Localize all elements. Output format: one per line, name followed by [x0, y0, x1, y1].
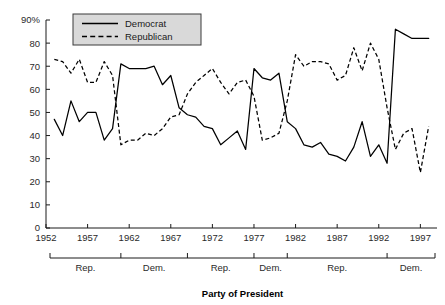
x-axis-title: Party of President [202, 288, 284, 299]
party-bracket-axis: Rep.Dem.Rep.Dem.Rep.Dem. [50, 253, 435, 273]
bracket-labels: Rep.Dem.Rep.Dem.Rep.Dem. [75, 262, 422, 273]
bracket-line [50, 253, 435, 258]
chart-legend: Democrat Republican [73, 14, 201, 45]
bracket-segment-label: Dem. [143, 262, 166, 273]
legend-label-republican: Republican [125, 31, 173, 42]
y-axis-tickmarks [46, 20, 50, 228]
x-axis-tick-labels: 1952195719621967197219771982198719921997 [35, 232, 431, 243]
y-tick-label: 80 [29, 38, 40, 49]
x-tick-label: 1962 [119, 232, 140, 243]
x-tick-label: 1987 [327, 232, 348, 243]
bracket-segment-label: Rep. [327, 262, 347, 273]
bracket-segment-label: Dem. [400, 262, 423, 273]
legend-label-democrat: Democrat [125, 18, 167, 29]
series-line-democrat [54, 29, 428, 163]
x-tick-label: 1977 [243, 232, 264, 243]
y-tick-label: 70 [29, 61, 40, 72]
y-axis-tick-labels: 0102030405060708090% [21, 14, 41, 233]
x-tick-label: 1952 [35, 232, 56, 243]
bracket-segment-label: Rep. [75, 262, 95, 273]
bracket-segment-label: Rep. [211, 262, 231, 273]
bracket-segment-label: Dem. [259, 262, 282, 273]
y-tick-label: 60 [29, 84, 40, 95]
x-tick-label: 1997 [410, 232, 431, 243]
line-chart: 0102030405060708090% 1952195719621967197… [0, 0, 445, 305]
x-tick-label: 1967 [160, 232, 181, 243]
x-tick-label: 1972 [202, 232, 223, 243]
x-axis-tickmarks [46, 224, 420, 228]
axis-frame [46, 20, 437, 228]
x-tick-label: 1992 [368, 232, 389, 243]
y-tick-label: 10 [29, 199, 40, 210]
y-tick-label: 90% [21, 14, 41, 25]
x-tick-label: 1982 [285, 232, 306, 243]
chart-figure: 0102030405060708090% 1952195719621967197… [0, 0, 445, 305]
y-tick-label: 40 [29, 130, 40, 141]
x-tick-label: 1957 [77, 232, 98, 243]
y-tick-label: 50 [29, 107, 40, 118]
y-tick-label: 20 [29, 176, 40, 187]
y-tick-label: 30 [29, 153, 40, 164]
